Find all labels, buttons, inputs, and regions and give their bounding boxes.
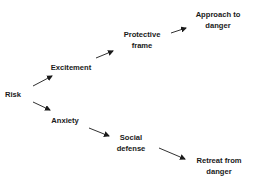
node-label-line-2: frame	[124, 40, 161, 51]
node-label-line-1: Social	[117, 132, 146, 143]
node-protective-frame: Protective frame	[124, 29, 161, 51]
node-risk: Risk	[5, 89, 21, 100]
node-label-line-1: Retreat from	[196, 155, 241, 166]
node-label-line-2: danger	[196, 166, 241, 177]
node-label: Excitement	[51, 62, 92, 73]
node-label-line-2: defense	[117, 143, 146, 154]
arrow-social_defense-to-retreat_from_danger	[159, 148, 185, 159]
node-label-line-1: Protective	[124, 29, 161, 40]
arrow-anxiety-to-social_defense	[89, 128, 109, 136]
arrow-risk-to-excitement	[33, 76, 52, 86]
arrow-protective_frame-to-approach_to_danger	[171, 28, 186, 33]
node-label-line-2: danger	[196, 20, 241, 31]
node-retreat-from-danger: Retreat from danger	[196, 155, 241, 177]
node-anxiety: Anxiety	[51, 115, 78, 126]
node-label: Anxiety	[51, 115, 78, 126]
node-approach-to-danger: Approach to danger	[196, 9, 241, 31]
node-label: Risk	[5, 89, 21, 100]
arrow-excitement-to-protective_frame	[96, 51, 113, 58]
node-label-line-1: Approach to	[196, 9, 241, 20]
arrow-risk-to-anxiety	[33, 102, 50, 110]
node-excitement: Excitement	[51, 62, 92, 73]
node-social-defense: Social defense	[117, 132, 146, 154]
